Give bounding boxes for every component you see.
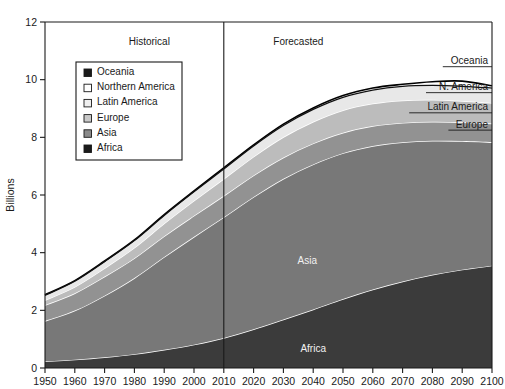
population-stacked-area-chart: 1950196019701980199020002010202020302040… (0, 0, 505, 389)
legend-swatch-northern-america (84, 84, 92, 92)
x-tick-label: 2030 (272, 375, 296, 387)
x-tick-label: 2060 (361, 375, 385, 387)
legend-label-northern-america: Northern America (97, 81, 175, 92)
legend-label-latin-america: Latin America (97, 96, 158, 107)
inline-label-asia: Asia (298, 255, 318, 266)
legend-swatch-europe (84, 115, 92, 123)
x-tick-label: 2100 (480, 375, 504, 387)
x-tick-label: 2080 (421, 375, 445, 387)
right-label-latin-america: Latin America (427, 101, 488, 112)
x-tick-label: 2040 (302, 375, 326, 387)
right-label-europe: Europe (456, 119, 489, 130)
legend-label-africa: Africa (97, 142, 123, 153)
x-tick-label: 2050 (331, 375, 355, 387)
x-tick-label: 1960 (63, 375, 87, 387)
y-tick-label: 8 (31, 131, 37, 143)
right-label-n.-america: N. America (439, 81, 488, 92)
y-tick-label: 10 (25, 73, 37, 85)
x-tick-label: 1990 (153, 375, 177, 387)
y-axis-ticks: 024681012 (25, 16, 45, 374)
y-tick-label: 12 (25, 16, 37, 28)
legend-swatch-latin-america (84, 99, 92, 107)
legend-label-europe: Europe (97, 112, 130, 123)
legend-label-oceania: Oceania (97, 66, 135, 77)
legend-swatch-africa (84, 145, 92, 153)
chart-canvas: 1950196019701980199020002010202020302040… (0, 0, 505, 389)
x-axis-ticks: 1950196019701980199020002010202020302040… (33, 368, 504, 387)
x-tick-label: 2020 (242, 375, 266, 387)
x-tick-label: 2070 (391, 375, 415, 387)
x-tick-label: 2010 (212, 375, 236, 387)
y-tick-label: 4 (31, 246, 37, 258)
y-tick-label: 0 (31, 362, 37, 374)
inline-label-africa: Africa (300, 343, 326, 354)
legend-label-asia: Asia (97, 127, 117, 138)
y-tick-label: 6 (31, 189, 37, 201)
legend-swatch-asia (84, 130, 92, 138)
period-label-historical: Historical (129, 36, 170, 47)
x-tick-label: 1980 (123, 375, 147, 387)
x-tick-label: 1970 (93, 375, 117, 387)
x-tick-label: 2090 (451, 375, 475, 387)
y-tick-label: 2 (31, 304, 37, 316)
legend: OceaniaNorthern AmericaLatin AmericaEuro… (76, 62, 182, 160)
x-tick-label: 1950 (33, 375, 57, 387)
right-label-oceania: Oceania (451, 55, 489, 66)
x-tick-label: 2000 (182, 375, 206, 387)
period-label-forecasted: Forecasted (273, 36, 323, 47)
legend-swatch-oceania (84, 69, 92, 77)
y-axis-label: Billions (4, 178, 16, 211)
